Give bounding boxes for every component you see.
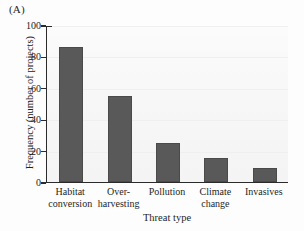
- x-axis-tick-label: Invasives: [237, 186, 291, 198]
- bar: [204, 158, 228, 182]
- plot-area: [46, 26, 288, 183]
- x-axis-tick-label-line: change: [188, 198, 242, 210]
- y-axis-tick-label-wrap: 0: [0, 178, 41, 188]
- y-axis-tick-label-wrap: 20: [0, 147, 41, 157]
- y-axis-tick-label: 40: [3, 115, 41, 125]
- y-axis-tick-label: 100: [3, 21, 41, 31]
- gridline: [47, 26, 288, 27]
- y-axis-tick-label-wrap: 40: [0, 115, 41, 125]
- bar: [156, 143, 180, 182]
- x-axis-tick-label: Pollution: [140, 186, 194, 198]
- x-axis-tick-label: Habitatconversion: [43, 186, 97, 209]
- y-axis-tick-label: 80: [3, 52, 41, 62]
- x-axis-tick-label-line: Over-: [91, 186, 145, 198]
- y-axis-tick-label: 0: [3, 178, 41, 188]
- y-axis-tick-label: 60: [3, 84, 41, 94]
- y-axis-tick-label-wrap: 60: [0, 84, 41, 94]
- figure-panel-a: (A) Frequency (number of projects) 02040…: [0, 0, 304, 231]
- x-axis-tick-label-line: Habitat: [43, 186, 97, 198]
- y-axis-top-tick: [46, 26, 52, 27]
- y-axis-tick-label: 20: [3, 147, 41, 157]
- panel-label: (A): [9, 3, 25, 15]
- y-axis-tick-label-wrap: 80: [0, 52, 41, 62]
- x-axis-tick-label-line: Climate: [188, 186, 242, 198]
- x-axis-title: Threat type: [46, 212, 288, 223]
- y-axis-title: Frequency (number of projects): [24, 18, 35, 188]
- x-axis-tick-label: Over-harvesting: [91, 186, 145, 209]
- bar: [108, 96, 132, 182]
- bar: [59, 47, 83, 182]
- y-axis-tick-label-wrap: 100: [0, 21, 41, 31]
- x-axis-tick-label-line: conversion: [43, 198, 97, 210]
- x-axis-tick-label-line: Pollution: [140, 186, 194, 198]
- x-axis-tick-label-line: Invasives: [237, 186, 291, 198]
- x-axis-tick-label-line: harvesting: [91, 198, 145, 210]
- x-axis-right-tick: [282, 182, 288, 183]
- x-axis-tick-label: Climatechange: [188, 186, 242, 209]
- bar: [253, 168, 277, 182]
